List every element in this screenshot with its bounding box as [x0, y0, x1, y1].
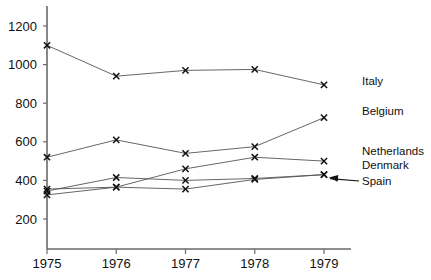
series-label-denmark: Denmark — [362, 159, 409, 171]
series-label-belgium: Belgium — [362, 105, 404, 117]
y-axis-tick-label: 1000 — [8, 57, 37, 72]
series-label-netherlands: Netherlands — [362, 145, 424, 157]
series-line — [47, 45, 324, 85]
spain-annotation-arrow — [329, 175, 359, 182]
x-axis-tick-label: 1977 — [171, 256, 200, 271]
series-label-spain: Spain — [362, 175, 391, 187]
series-label-italy: Italy — [362, 75, 383, 87]
series-line — [47, 175, 324, 195]
x-axis-tick-label: 1976 — [102, 256, 131, 271]
y-axis-tick-label: 1200 — [8, 19, 37, 34]
series-spain — [44, 172, 327, 198]
y-axis-tick-label: 200 — [15, 212, 37, 227]
series-line — [47, 118, 324, 158]
series-netherlands — [44, 154, 327, 192]
series-belgium — [44, 115, 327, 161]
line-chart: 2004006008001000120019751976197719781979… — [0, 0, 431, 280]
y-axis-tick-label: 600 — [15, 134, 37, 149]
y-axis-tick-label: 800 — [15, 96, 37, 111]
chart-canvas: 2004006008001000120019751976197719781979… — [0, 0, 431, 280]
y-axis-tick-label: 400 — [15, 173, 37, 188]
x-axis-tick-label: 1978 — [240, 256, 269, 271]
x-axis-tick-label: 1975 — [33, 256, 62, 271]
series-italy — [44, 42, 327, 88]
x-axis-tick-label: 1979 — [310, 256, 339, 271]
series-line — [47, 157, 324, 189]
